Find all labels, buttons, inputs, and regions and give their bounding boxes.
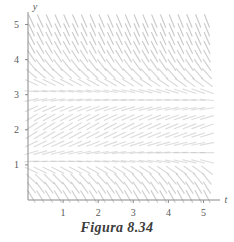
y-axis-label: y <box>32 1 38 12</box>
field-segment <box>72 191 79 202</box>
field-segment <box>202 78 213 86</box>
x-tick-label: 4 <box>166 207 171 218</box>
slope-field-segments <box>25 15 214 203</box>
field-segment <box>106 69 115 78</box>
y-tick-label: 1 <box>14 159 19 170</box>
y-tick-label: 4 <box>14 54 19 65</box>
figure-caption: Figura 8.34 <box>0 220 234 236</box>
field-segment <box>53 174 62 183</box>
field-segment <box>125 191 132 203</box>
field-segment <box>62 69 72 78</box>
field-segment <box>195 191 201 203</box>
field-segment <box>44 174 53 183</box>
x-tick-label: 1 <box>61 207 66 218</box>
field-segment <box>175 166 186 174</box>
field-segment <box>193 166 204 174</box>
field-segment <box>202 166 213 174</box>
field-segment <box>79 69 89 78</box>
field-segment <box>142 191 148 203</box>
x-tick-label: 2 <box>96 207 101 218</box>
field-segment <box>90 191 97 203</box>
field-segment <box>115 69 124 78</box>
field-segment <box>204 191 210 203</box>
field-segment <box>193 78 204 86</box>
y-tick-label: 5 <box>14 19 19 30</box>
field-segment <box>71 69 81 78</box>
x-tick-label: 5 <box>201 207 206 218</box>
field-segment <box>160 191 166 203</box>
field-segment <box>53 69 63 78</box>
field-segment <box>123 69 132 79</box>
field-segment <box>98 191 105 203</box>
field-segment <box>44 69 54 78</box>
y-tick-label: 3 <box>14 89 19 100</box>
field-segment <box>97 69 107 78</box>
field-segment <box>134 191 141 203</box>
field-segment <box>169 191 175 203</box>
field-segment <box>166 79 177 87</box>
field-segment <box>186 191 192 203</box>
x-axis-label: t <box>225 194 228 205</box>
y-tick-label: 2 <box>14 124 19 135</box>
field-segment <box>184 166 195 174</box>
field-segment <box>107 191 114 203</box>
field-segment <box>36 174 46 183</box>
field-segment <box>88 69 98 78</box>
figure-container: 1234512345ty Figura 8.34 <box>0 0 234 242</box>
field-segment <box>175 79 186 87</box>
field-segment <box>81 191 88 202</box>
field-segment <box>35 69 45 78</box>
field-segment <box>178 191 184 203</box>
field-segment <box>166 166 177 174</box>
field-segment <box>184 79 195 87</box>
field-segment <box>116 191 123 203</box>
field-segment <box>151 191 157 203</box>
x-tick-label: 3 <box>131 207 136 218</box>
slope-field-plot: 1234512345ty <box>0 0 234 242</box>
